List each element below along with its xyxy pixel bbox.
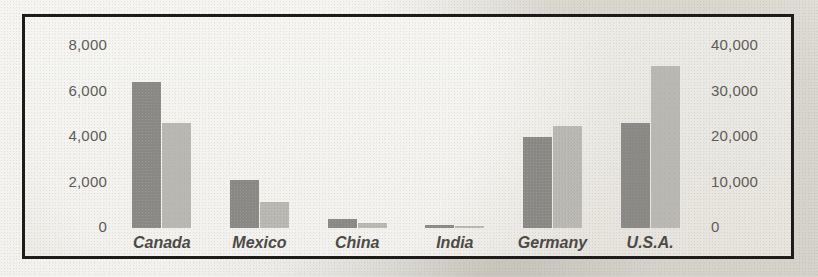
category-label-china: China xyxy=(308,234,406,252)
left-value-axis: 02,0004,0006,0008,000 xyxy=(31,17,107,256)
bar-primary-series-canada xyxy=(132,82,161,228)
bar-secondary-series-canada xyxy=(162,123,191,228)
category-label-mexico: Mexico xyxy=(211,234,309,252)
bar-group: India xyxy=(406,17,504,256)
bar-primary-series-china xyxy=(328,219,357,228)
category-label-india: India xyxy=(406,234,504,252)
bar-primary-series-usa xyxy=(621,123,650,228)
bar-secondary-series-china xyxy=(358,223,387,228)
bar-secondary-series-usa xyxy=(651,66,680,228)
bar-series-layer: CanadaMexicoChinaIndiaGermanyU.S.A. xyxy=(113,17,699,256)
bar-secondary-series-mexico xyxy=(260,202,289,228)
category-label-canada: Canada xyxy=(113,234,211,252)
bar-secondary-series-india xyxy=(455,226,484,228)
chart-frame: 02,0004,0006,0008,000 010,00020,00030,00… xyxy=(22,14,794,259)
bar-primary-series-india xyxy=(425,225,454,228)
right-value-axis: 010,00020,00030,00040,000 xyxy=(711,17,787,256)
bar-primary-series-germany xyxy=(523,137,552,228)
bar-group: Germany xyxy=(504,17,602,256)
chart-plot-area: 02,0004,0006,0008,000 010,00020,00030,00… xyxy=(25,17,791,256)
bar-primary-series-mexico xyxy=(230,180,259,228)
screenshot-page: 02,0004,0006,0008,000 010,00020,00030,00… xyxy=(0,0,818,277)
bar-group: China xyxy=(308,17,406,256)
category-label-usa: U.S.A. xyxy=(601,234,699,252)
bar-group: Canada xyxy=(113,17,211,256)
category-label-germany: Germany xyxy=(504,234,602,252)
bar-group: Mexico xyxy=(211,17,309,256)
bar-secondary-series-germany xyxy=(553,126,582,228)
bar-group: U.S.A. xyxy=(601,17,699,256)
